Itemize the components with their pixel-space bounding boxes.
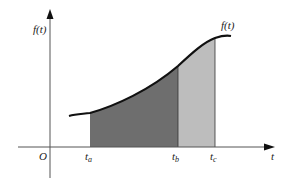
shaded-region-tb-tc (178, 38, 215, 147)
tick-label-tb: tb (172, 150, 179, 164)
shaded-region-ta-tb (90, 66, 178, 147)
area-under-curve-diagram: f(t) f(t) O t ta tb tc (0, 0, 285, 188)
origin-label: O (39, 150, 47, 162)
x-axis-label: t (271, 150, 275, 162)
tick-label-tc: tc (210, 150, 217, 164)
y-axis-label: f(t) (33, 23, 47, 36)
y-axis-arrow-icon (47, 9, 54, 19)
curve-label: f(t) (221, 19, 235, 32)
tick-label-ta: ta (85, 150, 92, 164)
